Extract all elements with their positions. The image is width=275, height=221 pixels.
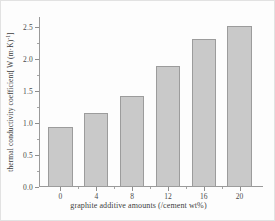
bar	[192, 39, 216, 187]
figure-container: thermal conductivity coefficient[ W (m·K…	[0, 0, 275, 221]
x-tick-label: 20	[236, 192, 244, 201]
y-tick-label: 1.5	[23, 86, 33, 95]
bar	[227, 26, 251, 187]
bar	[120, 96, 144, 187]
x-axis-title: graphite additive amounts (/cement wt%)	[1, 201, 275, 210]
y-tick-label: 1.0	[23, 118, 33, 127]
x-tick-mark	[60, 187, 61, 191]
x-tick-label: 0	[59, 192, 63, 201]
x-tick-label: 16	[200, 192, 208, 201]
plot-area	[39, 17, 261, 187]
x-tick-label: 12	[164, 192, 172, 201]
bar	[84, 113, 108, 187]
bar	[48, 127, 72, 187]
x-tick-mark	[204, 187, 205, 191]
x-tick-minor-mark	[114, 187, 115, 189]
y-tick-layer: 0.00.51.01.52.02.5	[1, 17, 39, 187]
x-tick-mark	[132, 187, 133, 191]
x-tick-minor-mark	[186, 187, 187, 189]
y-tick-label: 2.5	[23, 22, 33, 31]
y-tick-label: 0.5	[23, 150, 33, 159]
x-tick-minor-mark	[78, 187, 79, 189]
x-tick-minor-mark	[150, 187, 151, 189]
x-tick-label: 4	[94, 192, 98, 201]
bar	[156, 66, 180, 187]
x-tick-mark	[168, 187, 169, 191]
y-tick-label: 2.0	[23, 54, 33, 63]
x-tick-label: 8	[130, 192, 134, 201]
x-tick-mark	[240, 187, 241, 191]
x-tick-minor-mark	[222, 187, 223, 189]
x-tick-mark	[96, 187, 97, 191]
y-tick-label: 0.0	[23, 183, 33, 192]
